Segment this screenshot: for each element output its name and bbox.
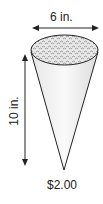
price-label: $2.00: [47, 178, 77, 192]
height-dimension-arrow: [22, 54, 28, 166]
cone-body: [31, 52, 98, 170]
popcorn-top: [31, 35, 98, 65]
width-label: 6 in.: [50, 10, 73, 24]
width-dimension-arrow: [32, 25, 99, 31]
height-label: 10 in.: [7, 91, 21, 131]
